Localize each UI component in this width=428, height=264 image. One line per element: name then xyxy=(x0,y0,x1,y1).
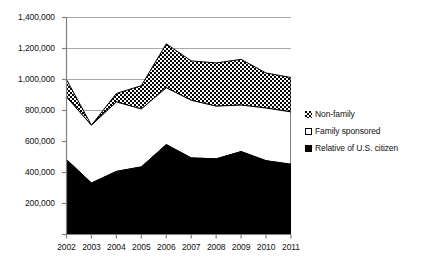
legend-item[interactable]: Non-family xyxy=(305,106,425,122)
chart-container: 200,000400,000600,000800,0001,000,0001,2… xyxy=(0,0,428,264)
legend-item[interactable]: Relative of U.S. citizen xyxy=(305,140,425,156)
legend-item[interactable]: Family sponsored xyxy=(305,123,425,139)
x-axis-tick-label: 2011 xyxy=(276,242,306,252)
legend-item-label: Family sponsored xyxy=(315,126,380,136)
legend-item-label: Relative of U.S. citizen xyxy=(315,143,398,153)
legend-item-label: Non-family xyxy=(315,109,355,119)
white-square-icon xyxy=(305,128,312,135)
black-square-icon xyxy=(305,145,312,152)
chart-legend: Non-familyFamily sponsoredRelative of U.… xyxy=(305,106,425,157)
hatched-square-icon xyxy=(305,111,312,118)
